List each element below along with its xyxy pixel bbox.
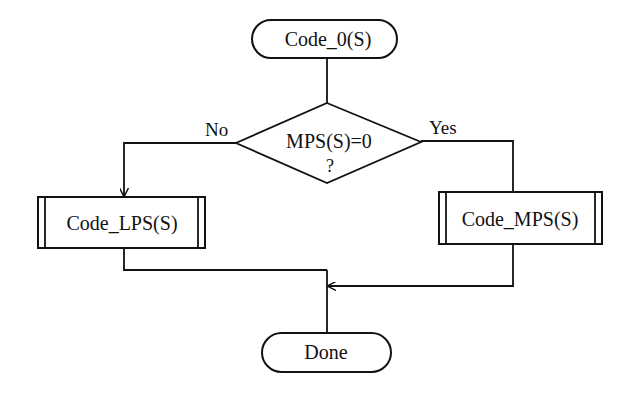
code-lps-process-box: Code_LPS(S) xyxy=(38,197,205,248)
code-mps-process-box: Code_MPS(S) xyxy=(439,192,602,244)
decision-question-mark: ? xyxy=(326,156,334,176)
done-terminal-label: Done xyxy=(304,341,347,363)
code-lps-label: Code_LPS(S) xyxy=(66,212,177,235)
start-terminal: Code_0(S) xyxy=(252,20,397,58)
code-mps-label: Code_MPS(S) xyxy=(462,208,579,231)
connector-mps-to-merge xyxy=(328,244,513,286)
done-terminal: Done xyxy=(262,333,391,372)
start-terminal-label: Code_0(S) xyxy=(285,28,372,51)
decision-condition-label: MPS(S)=0 xyxy=(286,130,372,153)
no-branch-label: No xyxy=(205,119,228,140)
yes-branch-label: Yes xyxy=(429,117,457,138)
connector-lps-to-merge xyxy=(124,248,327,270)
decision-diamond: MPS(S)=0 ? xyxy=(236,103,421,183)
connector-no-branch xyxy=(124,143,236,196)
flowchart-canvas: Code_0(S) MPS(S)=0 ? No Yes Code_LPS(S) … xyxy=(0,0,633,400)
connector-yes-branch xyxy=(421,141,513,192)
